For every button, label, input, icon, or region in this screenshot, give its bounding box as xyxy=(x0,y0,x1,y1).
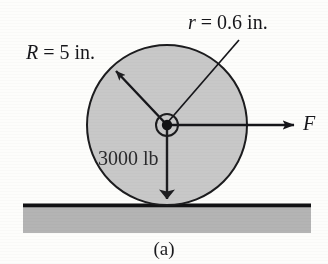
radius-R-label: R = 5 in. xyxy=(26,42,95,62)
radius-R-symbol: R xyxy=(26,41,38,63)
force-F-label: F xyxy=(303,113,315,133)
radius-R-value: = 5 in. xyxy=(43,41,95,63)
ground-band xyxy=(23,208,311,233)
radius-r-label: r = 0.6 in. xyxy=(188,12,268,32)
free-body-diagram-figure: R = 5 in. r = 0.6 in. F 3000 lb (a) xyxy=(0,0,328,264)
figure-caption: (a) xyxy=(0,238,328,260)
hub-center-dot xyxy=(162,120,172,130)
weight-label: 3000 lb xyxy=(98,148,159,168)
radius-r-value: = 0.6 in. xyxy=(201,11,268,33)
radius-r-symbol: r xyxy=(188,11,196,33)
diagram-canvas xyxy=(0,0,328,264)
